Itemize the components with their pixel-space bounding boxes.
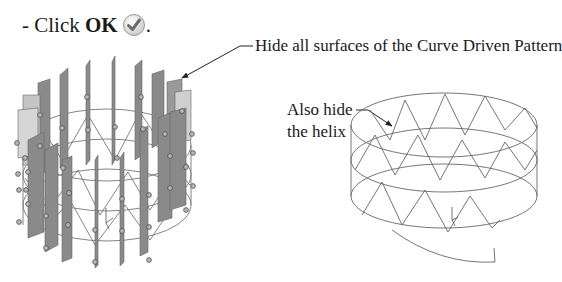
leader-line-2 (356, 110, 392, 126)
helix-figure (351, 93, 537, 262)
leader-line-1 (182, 46, 253, 78)
curve-driven-pattern-figure (15, 56, 196, 268)
